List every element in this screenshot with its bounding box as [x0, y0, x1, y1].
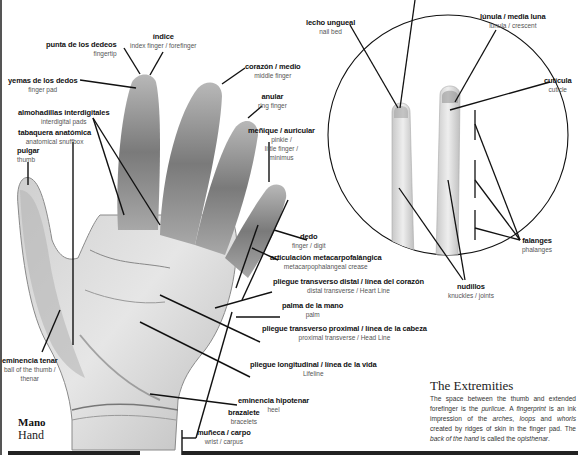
label-wrist: muñeca / carpo wrist / carpus [197, 428, 251, 446]
label-nail-bed: lecho ungueal nail bed [306, 18, 355, 36]
sidebar-body: The space between the thumb and extended… [430, 394, 576, 444]
fingernail-detail-circle [328, 15, 568, 260]
label-thenar: eminencia tenar ball of the thumb / then… [2, 356, 58, 383]
section-title-english: Hand [18, 428, 44, 443]
label-index-finger: índice index finger / forefinger [130, 32, 196, 50]
label-cuticle: cutícula cuticle [544, 76, 572, 94]
label-pinkie: meñique / auricular pinkie / little fing… [248, 126, 315, 162]
bottom-rule-right [182, 451, 578, 455]
dictionary-page: punta de los dedeos fingertip índice ind… [0, 0, 578, 455]
label-lunula: lúnula / media luna lunula / crescent [480, 12, 546, 30]
section-title-spanish: Mano [18, 416, 46, 428]
label-phalanges: falanges phalanges [522, 236, 552, 254]
label-knuckles: nudillos knuckles / joints [448, 282, 494, 300]
label-anatomical-snuffbox: tabaquera anatómica anatomical snuffbox [18, 128, 91, 146]
label-palm: palma de la mano palm [282, 301, 343, 319]
label-head-line: pliegue transverso proximal / línea de l… [262, 324, 427, 342]
sidebar-heading: The Extremities [430, 378, 513, 394]
label-middle-finger: corazón / medio middle finger [245, 62, 301, 80]
label-finger-pad: yemas de los dedos finger pad [8, 76, 77, 94]
label-heart-line: pliegue transverso distal / línea del co… [273, 277, 424, 295]
label-lifeline: pliegue longitudinal / línea de la vida … [250, 360, 377, 378]
label-thumb: pulgar thumb [17, 146, 39, 164]
label-ring-finger: anular ring finger [258, 92, 287, 110]
bottom-rule-left [8, 451, 140, 455]
label-metacarpophalangeal-crease: articulación metacarpofalángica metacarp… [270, 253, 382, 271]
label-interdigital-pads: almohadillas interdigitales interdigital… [18, 108, 110, 126]
label-fingertip: punta de los dedeos fingertip [46, 40, 117, 58]
label-finger-digit: dedo finger / digit [292, 232, 326, 250]
label-bracelets: brazalete bracelets [228, 408, 260, 426]
